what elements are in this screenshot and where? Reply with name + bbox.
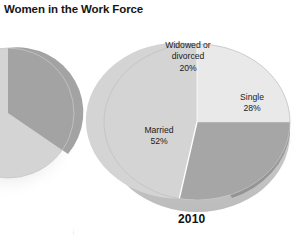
slice-value-single: 28%	[228, 103, 276, 114]
slice-label-married-line1: Married	[144, 125, 173, 135]
slice-value-married: 52%	[128, 136, 190, 147]
year-caption: 2010	[178, 212, 206, 226]
slice-label-widowed: Widowed or divorced 20%	[146, 40, 230, 74]
slice-label-widowed-line2: divorced	[172, 51, 204, 61]
secondary-pie-cropped	[0, 47, 83, 234]
slice-label-single: Single 28%	[228, 92, 276, 115]
slice-single	[179, 122, 290, 200]
pie-graphics	[0, 0, 306, 234]
slice-value-widowed: 20%	[146, 63, 230, 74]
slice-label-single-line1: Single	[240, 92, 264, 102]
slice-label-widowed-line1: Widowed or	[165, 40, 210, 50]
pie-chart-figure: Women in the Work Force	[0, 0, 306, 234]
slice-label-married: Married 52%	[128, 125, 190, 148]
